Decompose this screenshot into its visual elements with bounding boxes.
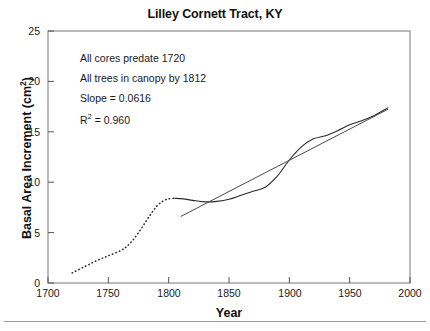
footer-divider (4, 321, 426, 322)
chart-figure: Lilley Cornett Tract, KY Basal Area Incr… (0, 0, 430, 331)
plot-frame (48, 31, 410, 283)
x-axis-ticks (48, 277, 410, 283)
regression-line (181, 109, 389, 216)
y-axis-ticks (48, 31, 54, 283)
series-line-dotted (72, 198, 175, 273)
plot-area (0, 0, 430, 331)
series-line-solid (175, 108, 389, 202)
